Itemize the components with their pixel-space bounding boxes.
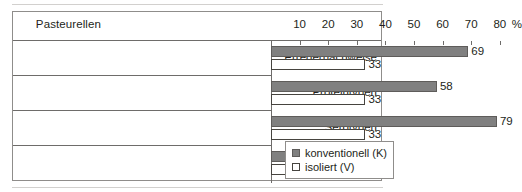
chart-legend: konventionell (K)isoliert (V): [285, 141, 394, 179]
filled-gray-swatch: [292, 149, 300, 157]
chart-frame: Pasteurellen 1020304050607080 % Erregern…: [12, 11, 382, 181]
top-divider-rule: [12, 4, 383, 5]
bar-v-1: [271, 59, 365, 70]
x-tick-mark-50: [414, 41, 415, 45]
bar-k-1: [271, 46, 468, 57]
x-tick-label-60: 60: [436, 18, 449, 30]
bar-k-3: [271, 116, 497, 127]
bar-value-v-3: 33: [368, 129, 381, 140]
chart-title: Pasteurellen: [13, 18, 101, 30]
legend-label-2: isoliert (V): [305, 161, 355, 173]
bar-value-v-1: 33: [368, 59, 381, 70]
bar-k-2: [271, 81, 437, 92]
chart-row: Proteintypen5833: [13, 76, 381, 111]
bar-value-k-1: 69: [471, 46, 484, 57]
legend-item-2[interactable]: isoliert (V): [292, 160, 387, 174]
x-tick-mark-60: [443, 41, 444, 45]
bar-v-2: [271, 94, 365, 105]
x-tick-label-30: 30: [350, 18, 363, 30]
x-tick-mark-40: [385, 41, 386, 45]
bottom-divider-rule: [12, 187, 383, 188]
legend-item-1[interactable]: konventionell (K): [292, 146, 387, 160]
chart-row: Erregernachweise6933: [13, 41, 381, 76]
x-tick-label-70: 70: [465, 18, 478, 30]
legend-label-1: konventionell (K): [305, 147, 387, 159]
bar-value-v-2: 33: [368, 94, 381, 105]
x-tick-label-80: 80: [493, 18, 506, 30]
x-tick-label-20: 20: [322, 18, 335, 30]
x-tick-mark-80: [500, 41, 501, 45]
chart-header-strip: Pasteurellen 1020304050607080 %: [13, 12, 381, 41]
x-tick-label-10: 10: [293, 18, 306, 30]
bar-value-k-3: 79: [500, 116, 513, 127]
x-axis-unit-label: %: [512, 18, 522, 30]
bar-value-k-2: 58: [440, 81, 453, 92]
x-tick-label-40: 40: [379, 18, 392, 30]
x-tick-label-50: 50: [408, 18, 421, 30]
hollow-white-swatch: [292, 163, 300, 171]
bar-v-3: [271, 129, 365, 140]
